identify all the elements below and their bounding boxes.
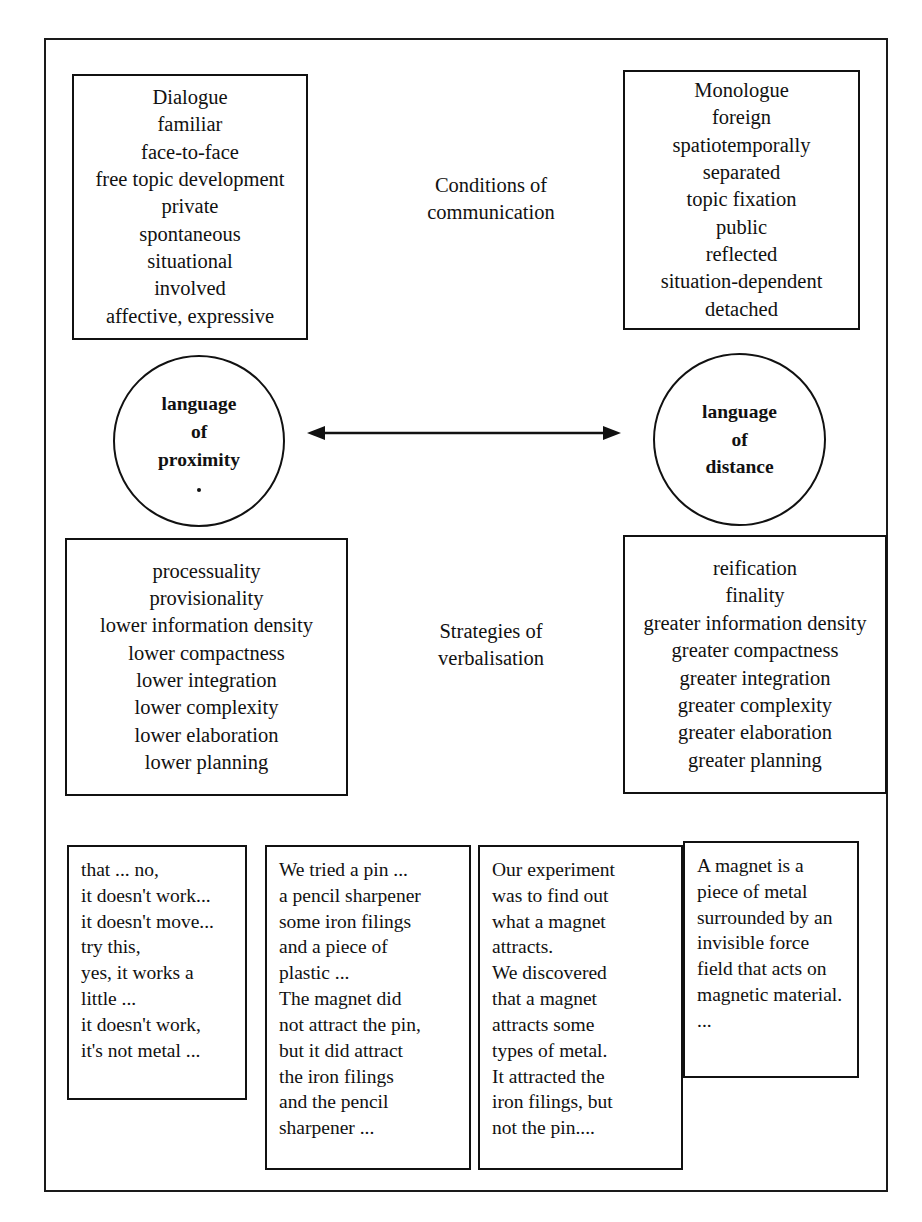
sample-3-line-7: types of metal. bbox=[492, 1038, 670, 1064]
sample-2-line-10: sharpener ... bbox=[279, 1115, 458, 1141]
conditions-distance-item-2: spatiotemporally bbox=[673, 132, 811, 159]
sample-2-line-1: a pencil sharpener bbox=[279, 883, 458, 909]
strategies-proximity-item-6: lower elaboration bbox=[134, 722, 278, 749]
distance-label-line-2: distance bbox=[705, 453, 773, 481]
sample-2-line-4: plastic ... bbox=[279, 960, 458, 986]
diagram-canvas: Dialogue familiar face-to-face free topi… bbox=[0, 0, 922, 1222]
conditions-distance-item-6: reflected bbox=[706, 241, 778, 268]
proximity-dot-mark bbox=[197, 488, 201, 492]
sample-2-line-9: and the pencil bbox=[279, 1089, 458, 1115]
conditions-distance-item-0: Monologue bbox=[694, 77, 789, 104]
sample-4-line-1: piece of metal bbox=[697, 879, 846, 905]
distance-label-line-1: of bbox=[731, 426, 747, 454]
sample-4-line-5: magnetic material. bbox=[697, 982, 846, 1008]
sample-3-line-9: iron filings, but bbox=[492, 1089, 670, 1115]
sample-3-line-6: attracts some bbox=[492, 1012, 670, 1038]
strategies-distance-item-0: reification bbox=[713, 555, 797, 582]
sample-2-line-0: We tried a pin ... bbox=[279, 857, 458, 883]
sample-4-line-4: field that acts on bbox=[697, 956, 846, 982]
sample-1-line-2: it doesn't move... bbox=[81, 909, 234, 935]
conditions-distance-item-5: public bbox=[716, 214, 767, 241]
strategies-distance-item-3: greater compactness bbox=[672, 637, 839, 664]
conditions-distance-item-1: foreign bbox=[712, 104, 771, 131]
strategies-label-line-0: Strategies of bbox=[378, 618, 604, 645]
sample-text-box-1: that ... no, it doesn't work... it doesn… bbox=[67, 845, 247, 1100]
strategies-proximity-item-7: lower planning bbox=[145, 749, 269, 776]
sample-1-line-3: try this, bbox=[81, 934, 234, 960]
strategies-distance-item-7: greater planning bbox=[688, 747, 822, 774]
conditions-of-communication-label: Conditions of communication bbox=[378, 172, 604, 227]
conditions-distance-box: Monologue foreign spatiotemporally separ… bbox=[623, 70, 860, 330]
strategies-distance-item-5: greater complexity bbox=[678, 692, 832, 719]
sample-3-line-8: It attracted the bbox=[492, 1064, 670, 1090]
pole-circle-language-of-proximity: language of proximity bbox=[113, 355, 285, 527]
strategies-distance-item-2: greater information density bbox=[643, 610, 866, 637]
strategies-proximity-item-0: processuality bbox=[152, 558, 260, 585]
proximity-label-line-0: language bbox=[162, 390, 237, 418]
strategies-of-verbalisation-label: Strategies of verbalisation bbox=[378, 618, 604, 673]
proximity-label-line-2: proximity bbox=[158, 446, 240, 474]
sample-3-line-4: We discovered bbox=[492, 960, 670, 986]
strategies-distance-item-4: greater integration bbox=[680, 665, 831, 692]
conditions-distance-item-7: situation-dependent bbox=[661, 268, 823, 295]
sample-3-line-3: attracts. bbox=[492, 934, 670, 960]
proximity-label-line-1: of bbox=[191, 418, 207, 446]
sample-4-line-6: ... bbox=[697, 1008, 846, 1034]
strategies-proximity-item-1: provisionality bbox=[150, 585, 264, 612]
sample-text-box-4: A magnet is a piece of metal surrounded … bbox=[683, 841, 859, 1078]
pole-circle-language-of-distance: language of distance bbox=[653, 353, 826, 526]
sample-1-line-7: it's not metal ... bbox=[81, 1038, 234, 1064]
strategies-label-line-1: verbalisation bbox=[378, 645, 604, 672]
sample-2-line-8: the iron filings bbox=[279, 1064, 458, 1090]
sample-2-line-7: but it did attract bbox=[279, 1038, 458, 1064]
conditions-proximity-item-8: affective, expressive bbox=[106, 303, 274, 330]
conditions-distance-item-8: detached bbox=[705, 296, 778, 323]
strategies-proximity-item-4: lower integration bbox=[136, 667, 277, 694]
strategies-distance-item-1: finality bbox=[725, 582, 784, 609]
sample-4-line-2: surrounded by an bbox=[697, 905, 846, 931]
sample-1-line-4: yes, it works a bbox=[81, 960, 234, 986]
sample-1-line-1: it doesn't work... bbox=[81, 883, 234, 909]
conditions-label-line-0: Conditions of bbox=[378, 172, 604, 199]
sample-3-line-2: what a magnet bbox=[492, 909, 670, 935]
conditions-proximity-item-3: free topic development bbox=[96, 166, 285, 193]
conditions-proximity-item-6: situational bbox=[147, 248, 232, 275]
sample-4-line-3: invisible force bbox=[697, 930, 846, 956]
strategies-proximity-item-2: lower information density bbox=[100, 612, 313, 639]
sample-3-line-5: that a magnet bbox=[492, 986, 670, 1012]
sample-2-line-2: some iron filings bbox=[279, 909, 458, 935]
strategies-proximity-box: processuality provisionality lower infor… bbox=[65, 538, 348, 796]
strategies-distance-item-6: greater elaboration bbox=[678, 719, 832, 746]
conditions-proximity-item-7: involved bbox=[154, 275, 226, 302]
sample-2-line-3: and a piece of bbox=[279, 934, 458, 960]
conditions-proximity-item-0: Dialogue bbox=[152, 84, 227, 111]
sample-2-line-5: The magnet did bbox=[279, 986, 458, 1012]
conditions-proximity-item-2: face-to-face bbox=[141, 139, 239, 166]
double-headed-arrow-icon bbox=[303, 415, 625, 451]
distance-label-line-0: language bbox=[702, 398, 777, 426]
conditions-proximity-item-5: spontaneous bbox=[139, 221, 240, 248]
conditions-distance-item-3: separated bbox=[703, 159, 780, 186]
sample-text-box-2: We tried a pin ... a pencil sharpener so… bbox=[265, 845, 471, 1170]
sample-3-line-1: was to find out bbox=[492, 883, 670, 909]
sample-4-line-0: A magnet is a bbox=[697, 853, 846, 879]
sample-1-line-0: that ... no, bbox=[81, 857, 234, 883]
conditions-proximity-box: Dialogue familiar face-to-face free topi… bbox=[72, 74, 308, 340]
sample-2-line-6: not attract the pin, bbox=[279, 1012, 458, 1038]
sample-3-line-10: not the pin.... bbox=[492, 1115, 670, 1141]
conditions-proximity-item-1: familiar bbox=[158, 111, 223, 138]
conditions-proximity-item-4: private bbox=[162, 193, 219, 220]
sample-1-line-5: little ... bbox=[81, 986, 234, 1012]
strategies-proximity-item-5: lower complexity bbox=[134, 694, 278, 721]
conditions-label-line-1: communication bbox=[378, 199, 604, 226]
strategies-proximity-item-3: lower compactness bbox=[128, 640, 285, 667]
sample-3-line-0: Our experiment bbox=[492, 857, 670, 883]
sample-1-line-6: it doesn't work, bbox=[81, 1012, 234, 1038]
sample-text-box-3: Our experiment was to find out what a ma… bbox=[478, 845, 683, 1170]
strategies-distance-box: reification finality greater information… bbox=[623, 535, 887, 794]
conditions-distance-item-4: topic fixation bbox=[687, 186, 797, 213]
